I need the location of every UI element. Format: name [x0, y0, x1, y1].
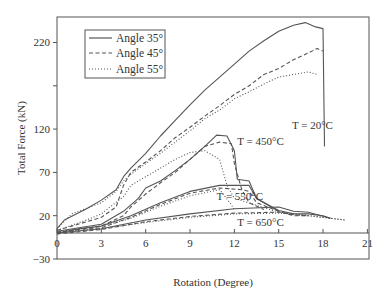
temperature-annotation: T = 550°C: [217, 190, 263, 202]
x-tick-label: 9: [187, 237, 193, 249]
y-tick-label: −30: [33, 253, 51, 265]
temperature-annotation: T = 450°C: [237, 135, 283, 147]
x-axis-label: Rotation (Degree): [173, 276, 253, 289]
y-tick-label: 20: [39, 210, 51, 222]
x-tick-label: 18: [318, 237, 330, 249]
legend: Angle 35° Angle 45° Angle 55°: [85, 30, 165, 78]
series-line-solid: [57, 207, 330, 233]
x-tick-label: 0: [54, 237, 60, 249]
x-tick-label: 6: [143, 237, 149, 249]
y-tick-label: 220: [34, 36, 51, 48]
y-axis-label: Total Force (kN): [15, 101, 28, 175]
x-tick-label: 12: [229, 237, 240, 249]
legend-label-55: Angle 55°: [116, 63, 163, 76]
x-tick-label: 3: [99, 237, 105, 249]
series-line-solid: [57, 135, 330, 231]
y-tick-label: 120: [34, 123, 51, 135]
temperature-annotation: T = 20°C: [292, 119, 333, 131]
legend-label-35: Angle 35°: [116, 32, 163, 45]
legend-label-45: Angle 45°: [116, 47, 163, 60]
series-line-dotted: [57, 151, 345, 231]
y-tick-label: 70: [39, 166, 51, 178]
x-axis-ticks: 036912151821: [54, 229, 373, 249]
x-tick-label: 15: [273, 237, 285, 249]
annotations: T = 20°CT = 450°CT = 550°CT = 650°C: [217, 119, 333, 228]
series-line-dotted: [57, 72, 317, 229]
force-rotation-chart: 036912151821 −302070120220 T = 20°CT = 4…: [0, 0, 392, 292]
x-tick-label: 21: [362, 237, 373, 249]
y-axis-ticks: −302070120220: [33, 36, 57, 265]
temperature-annotation: T = 650°C: [237, 216, 283, 228]
